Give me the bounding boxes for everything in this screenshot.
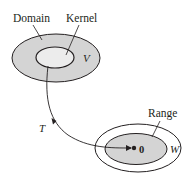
domain-label: Domain: [13, 12, 50, 24]
range-ellipse: [105, 134, 167, 165]
zero-vector-label: 0: [139, 144, 144, 155]
range-label: Range: [148, 107, 177, 120]
kernel-range-diagram: Domain Kernel V Range W 0 T: [0, 0, 183, 183]
kernel-label: Kernel: [66, 12, 97, 24]
codomain-space-symbol: W: [170, 143, 180, 155]
zero-vector-dot: [132, 146, 136, 150]
transformation-label: T: [39, 122, 46, 134]
